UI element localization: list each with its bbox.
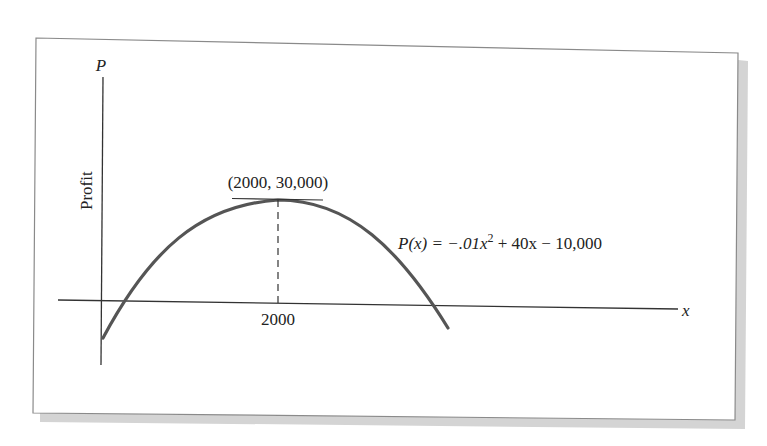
profit-parabola-figure: P x Profit (2000, 30,000) 2000 P(x) = −.…: [0, 0, 767, 446]
x-axis-symbol: x: [681, 301, 690, 320]
y-axis-symbol: P: [95, 56, 106, 75]
equation-label: P(x) = −.01x2 + 40x − 10,000: [397, 231, 602, 253]
vertex-label: (2000, 30,000): [228, 173, 329, 192]
x-tick-label-2000: 2000: [261, 310, 295, 329]
y-axis-label: Profit: [77, 171, 96, 210]
equation-lhs: P(x) = −.01x: [397, 234, 488, 253]
figure-frame: [33, 38, 738, 420]
equation-rhs: + 40x − 10,000: [494, 234, 602, 253]
